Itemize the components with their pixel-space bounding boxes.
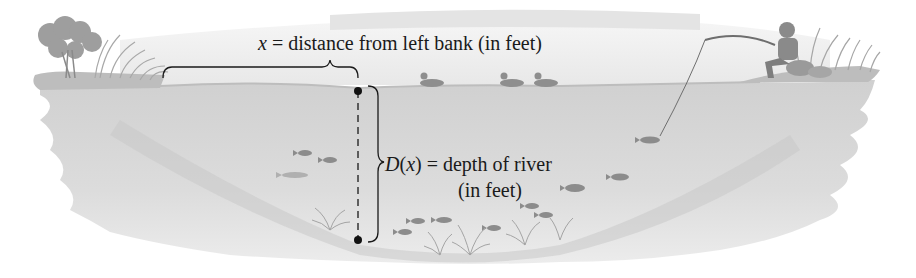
x-description: distance from left bank (in feet) xyxy=(288,32,542,54)
d-variable: x xyxy=(406,153,415,175)
x-variable: x xyxy=(258,32,267,54)
depth-units-label: (in feet) xyxy=(458,180,522,200)
equals-sign: = xyxy=(422,153,443,175)
depth-function-label: D(x) = depth of river xyxy=(385,154,552,174)
depth-description: depth of river xyxy=(443,153,552,175)
close-paren: ) xyxy=(415,153,422,175)
bottom-point-dot xyxy=(354,236,362,244)
surface-point-dot xyxy=(354,87,362,95)
d-function-name: D xyxy=(385,153,399,175)
equals-sign: = xyxy=(267,32,288,54)
x-distance-label: x = distance from left bank (in feet) xyxy=(258,33,542,53)
